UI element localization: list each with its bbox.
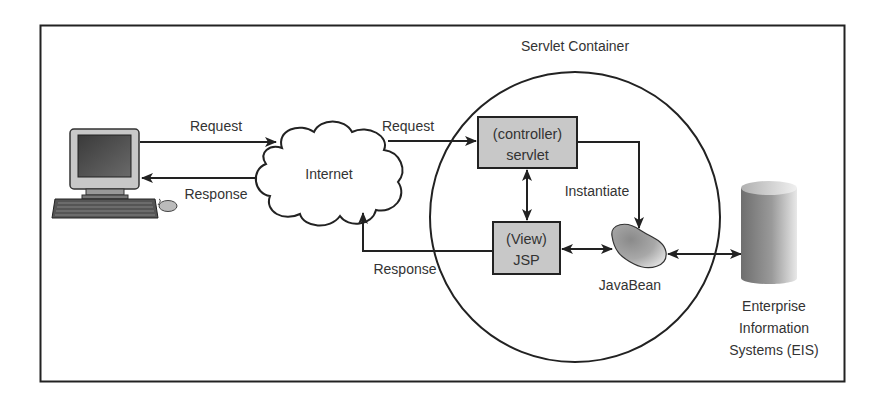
eis-label-line2: Information bbox=[739, 320, 809, 336]
eis-database-icon bbox=[741, 181, 797, 284]
javabean-icon bbox=[612, 224, 666, 267]
request-label-1: Request bbox=[190, 118, 242, 134]
eis-label-line1: Enterprise bbox=[742, 298, 806, 314]
view-label-line1: (View) bbox=[506, 231, 547, 247]
view-jsp-box: (View) JSP bbox=[493, 222, 560, 274]
architecture-diagram: Servlet Container Request Response Inter… bbox=[0, 0, 874, 399]
controller-label-line2: servlet bbox=[506, 147, 549, 163]
controller-servlet-box: (controller) servlet bbox=[478, 117, 577, 168]
internet-label: Internet bbox=[305, 166, 353, 182]
response-label-1: Response bbox=[184, 186, 247, 202]
servlet-container-circle bbox=[430, 72, 720, 362]
controller-label-line1: (controller) bbox=[493, 126, 562, 142]
servlet-container-title: Servlet Container bbox=[521, 38, 630, 54]
eis-label-line3: Systems (EIS) bbox=[729, 342, 818, 358]
javabean-label: JavaBean bbox=[599, 277, 661, 293]
view-label-line2: JSP bbox=[513, 252, 540, 268]
response-label-2: Response bbox=[373, 261, 436, 277]
instantiate-label: Instantiate bbox=[565, 183, 630, 199]
response-arrow-view-internet bbox=[363, 213, 493, 251]
request-label-2: Request bbox=[382, 118, 434, 134]
